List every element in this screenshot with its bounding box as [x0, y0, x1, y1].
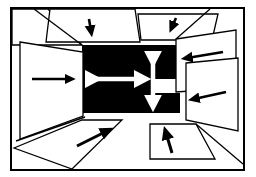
perspective-room-diagram	[0, 0, 256, 177]
ceiling-panel-center	[46, 9, 140, 42]
figure-stage: A rectangular outer frame encloses a dra…	[0, 0, 256, 177]
